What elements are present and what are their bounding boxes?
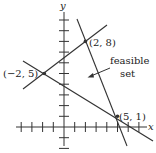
constraint-line-rising <box>23 25 107 89</box>
y-axis-label: y <box>59 0 66 11</box>
feasible-set-label-line2: set <box>120 68 135 79</box>
vertex-dot-neg2-5 <box>43 72 47 76</box>
feasible-set-label-line1: feasible <box>110 55 150 66</box>
vertex-label-5-1: (5, 1) <box>119 111 146 122</box>
x-axis-label: x <box>148 121 154 132</box>
vertex-label-2-8: (2, 8) <box>89 37 116 48</box>
vertex-label-neg2-5: (−2, 5) <box>3 68 38 79</box>
vertex-dot-2-8 <box>84 40 88 44</box>
feasible-set-diagram: y x (−2, 5) (2, 8) (5, 1) feasible set <box>0 0 156 153</box>
arrow-icon <box>88 68 111 78</box>
